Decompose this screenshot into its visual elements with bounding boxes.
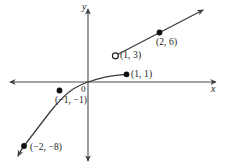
x-axis-label: x (211, 84, 216, 94)
point-label-neg2-neg8: (−2, −8) (30, 143, 62, 153)
origin-label: 0 (81, 85, 86, 94)
point-marker-1-3-open (112, 53, 118, 59)
point-marker-neg2-neg8 (21, 143, 27, 149)
graph-figure: y x 0 (1, 1) (1, 3) (2, 6) (−1, −1) (−2,… (0, 0, 226, 167)
point-label-2-6: (2, 6) (156, 38, 177, 48)
point-marker-neg1-neg1 (57, 88, 63, 94)
point-marker-2-6 (157, 30, 163, 36)
y-axis-label: y (82, 2, 87, 12)
point-label-1-1: (1, 1) (131, 70, 152, 80)
point-label-1-3: (1, 3) (120, 51, 141, 61)
point-label-neg1-neg1: (−1, −1) (55, 96, 87, 106)
point-marker-1-1 (124, 71, 130, 77)
